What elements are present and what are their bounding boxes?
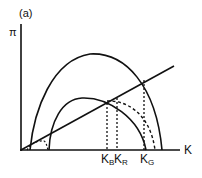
inner-profit-curve — [49, 98, 146, 150]
tick-kg-main: K — [140, 152, 148, 166]
tick-kr-sub: R — [122, 158, 128, 167]
tick-kr-main: K — [114, 152, 122, 166]
shifted-profit-curve — [107, 101, 155, 150]
y-axis-label: π — [9, 27, 17, 38]
tick-label-kb: KB — [101, 153, 114, 167]
x-axis-label: K — [184, 144, 192, 156]
panel-label: (a) — [19, 8, 32, 19]
tick-kg-sub: G — [148, 158, 154, 167]
diagram-figure: (a) π K KB KR KG — [0, 0, 202, 178]
cost-line — [21, 66, 174, 150]
tick-label-kr: KR — [114, 153, 128, 167]
tick-label-kg: KG — [140, 153, 154, 167]
tick-kb-main: K — [101, 152, 109, 166]
